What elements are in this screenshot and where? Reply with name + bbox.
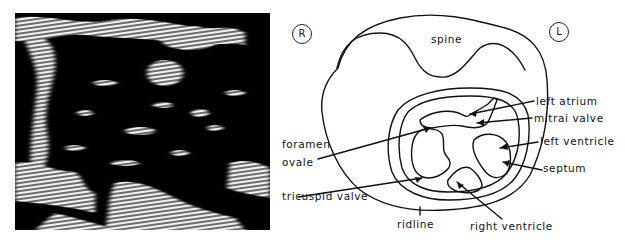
right-side-marker: R [292,24,312,44]
left-ventricle-chamber [473,134,511,177]
label-spine: spine [431,33,462,45]
ultrasound-scan-graphic [15,13,270,230]
anatomy-diagram: R L spine left atrium mitrai valve left … [270,0,625,242]
label-ovale: ovale [282,156,313,168]
label-left-atrium: left atrium [536,95,598,107]
label-tricuspid-valve: tricuspid valve [282,190,368,202]
left-atrium-chamber [420,98,497,128]
pointer-right-ventricle [457,182,502,219]
ultrasound-image [15,13,270,230]
right-chamber [412,129,451,178]
pointer-mitral-valve [477,118,532,123]
left-side-marker: L [549,22,569,42]
label-midline: ridline [397,218,434,230]
label-left-ventricle: left ventricle [540,135,615,147]
label-mitral-valve: mitrai valve [534,112,604,124]
label-septum: septum [543,162,586,174]
label-right-ventricle: right ventricle [470,220,553,232]
label-foramen: foramen [282,138,330,150]
